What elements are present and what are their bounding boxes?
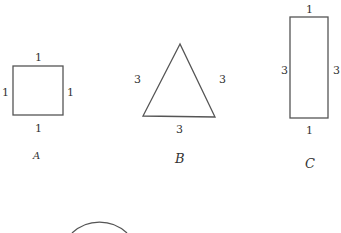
rectangle-c-right-label: 3 (333, 65, 340, 76)
triangle-b (143, 44, 215, 117)
triangle-b-caption: B (175, 151, 185, 166)
square-a-bottom-label: 1 (35, 123, 42, 134)
rectangle-c-caption: C (305, 156, 315, 171)
circle-d (72, 222, 127, 233)
square-a-right-label: 1 (67, 87, 74, 98)
square-a-caption: A (33, 150, 40, 161)
triangle-b-left-label: 3 (134, 74, 141, 85)
rectangle-c-top-label: 1 (306, 4, 313, 15)
square-a (13, 66, 63, 115)
diagram-canvas (0, 0, 341, 233)
rectangle-c-left-label: 3 (281, 65, 288, 76)
square-a-left-label: 1 (2, 87, 9, 98)
rectangle-c (290, 17, 328, 118)
rectangle-c-bottom-label: 1 (306, 125, 313, 136)
triangle-b-bottom-label: 3 (176, 124, 183, 135)
square-a-top-label: 1 (35, 52, 42, 63)
triangle-b-right-label: 3 (219, 74, 226, 85)
